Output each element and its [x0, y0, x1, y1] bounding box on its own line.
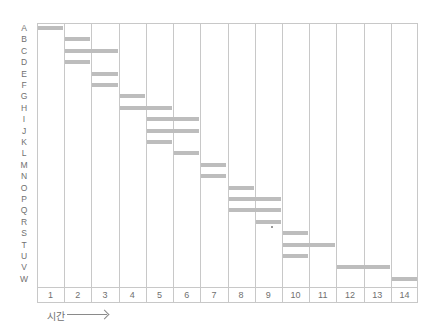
arrow-right-icon — [67, 314, 107, 315]
grid-line — [255, 23, 256, 303]
row-label: T — [18, 240, 30, 250]
row-label: B — [18, 34, 30, 44]
task-bar — [229, 197, 281, 201]
grid-line — [119, 23, 120, 303]
row-label: S — [18, 228, 30, 238]
x-axis-title: 시간 — [47, 308, 65, 323]
task-bar — [65, 49, 117, 53]
x-tick-label: 7 — [200, 290, 227, 300]
task-bar — [65, 37, 90, 41]
row-label: L — [18, 148, 30, 158]
x-tick-label: 11 — [309, 290, 336, 300]
grid-line — [336, 23, 337, 303]
x-tick-label: 13 — [364, 290, 391, 300]
row-label: I — [18, 114, 30, 124]
x-tick-label: 9 — [255, 290, 282, 300]
grid-line — [228, 23, 229, 303]
task-bar — [147, 129, 199, 133]
row-label: E — [18, 69, 30, 79]
x-tick-label: 2 — [64, 290, 91, 300]
row-label: J — [18, 126, 30, 136]
x-tick-label: 10 — [282, 290, 309, 300]
row-label: A — [18, 23, 30, 33]
row-label: M — [18, 160, 30, 170]
row-label: G — [18, 91, 30, 101]
grid-line — [173, 23, 174, 303]
task-bar — [283, 243, 335, 247]
grid-line — [146, 23, 147, 303]
grid-line — [91, 23, 92, 303]
axis-divider — [37, 287, 418, 288]
stray-dot — [271, 226, 273, 228]
grid-line — [309, 23, 310, 303]
row-label: V — [18, 262, 30, 272]
row-label: H — [18, 103, 30, 113]
task-bar — [147, 140, 172, 144]
task-bar — [201, 174, 226, 178]
task-bar — [337, 265, 389, 269]
task-bar — [120, 106, 172, 110]
row-label: R — [18, 217, 30, 227]
task-bar — [92, 83, 117, 87]
row-label: W — [18, 274, 30, 284]
x-tick-label: 12 — [336, 290, 363, 300]
task-bar — [229, 208, 281, 212]
gantt-chart: ABCDEFGHIJKLMNOPQRSTUVW 1234567891011121… — [0, 0, 439, 330]
grid-line — [64, 23, 65, 303]
task-bar — [120, 94, 145, 98]
row-label: K — [18, 137, 30, 147]
task-bar — [283, 231, 308, 235]
row-label: F — [18, 80, 30, 90]
task-bar — [392, 277, 417, 281]
grid-line — [364, 23, 365, 303]
x-tick-label: 1 — [37, 290, 64, 300]
row-label: D — [18, 57, 30, 67]
task-bar — [147, 117, 199, 121]
row-label: Q — [18, 205, 30, 215]
x-tick-label: 8 — [228, 290, 255, 300]
task-bar — [38, 26, 63, 30]
row-label: C — [18, 46, 30, 56]
task-bar — [229, 186, 254, 190]
row-label: U — [18, 251, 30, 261]
row-label: N — [18, 171, 30, 181]
task-bar — [65, 60, 90, 64]
row-label: O — [18, 183, 30, 193]
x-tick-label: 5 — [146, 290, 173, 300]
x-tick-label: 14 — [391, 290, 418, 300]
task-bar — [92, 72, 117, 76]
task-bar — [283, 254, 308, 258]
grid-line — [282, 23, 283, 303]
grid-line — [391, 23, 392, 303]
x-tick-label: 6 — [173, 290, 200, 300]
row-label: P — [18, 194, 30, 204]
task-bar — [174, 151, 199, 155]
x-tick-label: 3 — [91, 290, 118, 300]
x-tick-label: 4 — [119, 290, 146, 300]
task-bar — [201, 163, 226, 167]
task-bar — [256, 220, 281, 224]
